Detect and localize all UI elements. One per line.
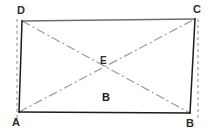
vertex-label-a: A	[12, 117, 20, 128]
geometry-diagram: A B C D E B	[0, 0, 212, 135]
vertex-label-c: C	[193, 4, 201, 15]
vertex-label-d: D	[17, 5, 25, 16]
edge-b-a	[19, 112, 190, 113]
figure-canvas	[0, 0, 212, 135]
edge-d-c	[22, 19, 195, 21]
edge-c-b	[190, 19, 195, 113]
vertex-label-b: B	[186, 118, 194, 129]
edge-a-d	[19, 21, 22, 112]
interior-label-b: B	[102, 92, 110, 103]
intersection-label-e: E	[100, 56, 107, 66]
